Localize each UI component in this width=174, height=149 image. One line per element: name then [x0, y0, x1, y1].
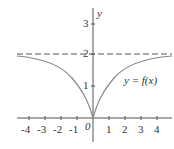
x-tick-label: 3 [138, 124, 144, 135]
x-tick-label: 1 [106, 124, 112, 135]
x-tick-label: -4 [21, 124, 30, 135]
x-tick-label: 2 [122, 124, 128, 135]
y-tick-label: 3 [83, 18, 89, 29]
y-tick-label: 1 [83, 80, 89, 91]
curve [17, 56, 172, 118]
origin-label: 0 [85, 121, 91, 132]
x-tick-label: 4 [154, 124, 160, 135]
y-axis-label: y [97, 8, 102, 19]
curve-annotation: y = f(x) [124, 75, 157, 86]
x-tick-label: -2 [53, 124, 62, 135]
x-tick-label: -1 [69, 124, 78, 135]
x-tick-label: -3 [37, 124, 46, 135]
y-tick-label: 2 [83, 48, 89, 59]
